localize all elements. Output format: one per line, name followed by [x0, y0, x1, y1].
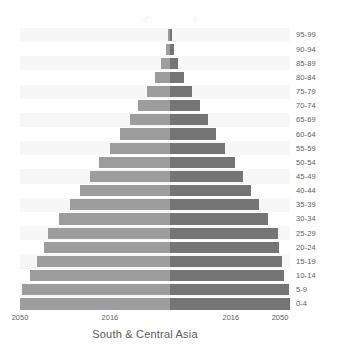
age-axis-label: 85-89	[296, 56, 351, 70]
bar-wrap	[20, 157, 290, 168]
bar-wrap	[20, 86, 290, 97]
bar-male	[59, 213, 170, 224]
bar-female	[170, 270, 284, 281]
pyramid-row	[20, 85, 290, 99]
age-axis-label: 95-99	[296, 28, 351, 42]
age-axis-label: 35-39	[296, 198, 351, 212]
bar-male	[130, 114, 171, 125]
bar-female	[170, 228, 278, 239]
age-axis-label: 45-49	[296, 169, 351, 183]
bar-male	[37, 256, 170, 267]
bar-female	[170, 298, 290, 309]
bar-wrap	[20, 29, 290, 40]
age-axis-label: 90-94	[296, 42, 351, 56]
bar-female	[170, 128, 216, 139]
bar-wrap	[20, 256, 290, 267]
bar-wrap	[20, 128, 290, 139]
bar-male	[155, 72, 170, 83]
bar-female	[170, 242, 279, 253]
bar-wrap	[20, 185, 290, 196]
bar-male	[48, 228, 170, 239]
pyramid-row	[20, 269, 290, 283]
bar-female	[170, 213, 268, 224]
pyramid-row	[20, 113, 290, 127]
bar-rows	[20, 28, 290, 311]
age-axis-label: 15-19	[296, 254, 351, 268]
bar-female	[170, 44, 174, 55]
age-axis-label: 40-44	[296, 184, 351, 198]
bar-female	[170, 199, 259, 210]
bar-male	[44, 242, 170, 253]
age-axis-label: 50-54	[296, 155, 351, 169]
x-axis-tick-label: 2050	[12, 313, 29, 322]
pyramid-row	[20, 56, 290, 70]
bar-female	[170, 86, 192, 97]
age-axis-label: 65-69	[296, 113, 351, 127]
bar-male	[22, 284, 170, 295]
age-axis-label: 55-59	[296, 141, 351, 155]
pyramid-row	[20, 184, 290, 198]
chart-title: South & Central Asia	[0, 328, 290, 340]
bar-male	[110, 143, 170, 154]
bar-wrap	[20, 44, 290, 55]
bar-female	[170, 171, 243, 182]
plot-area	[20, 28, 290, 311]
pyramid-row	[20, 127, 290, 141]
bar-female	[170, 256, 282, 267]
bar-wrap	[20, 114, 290, 125]
age-axis-label: 80-84	[296, 70, 351, 84]
population-pyramid-chart: ♂ ♀ 0-45-910-1415-1920-2425-2930-3435-39…	[0, 0, 351, 359]
age-axis-label: 30-34	[296, 212, 351, 226]
pyramid-row	[20, 283, 290, 297]
bar-wrap	[20, 228, 290, 239]
bar-female	[170, 72, 184, 83]
age-axis-label: 60-64	[296, 127, 351, 141]
pyramid-row	[20, 198, 290, 212]
bar-wrap	[20, 58, 290, 69]
pyramid-row	[20, 155, 290, 169]
pyramid-row	[20, 240, 290, 254]
bar-male	[147, 86, 170, 97]
x-axis-tick-label: 2050	[272, 313, 289, 322]
bar-wrap	[20, 284, 290, 295]
bar-male	[80, 185, 170, 196]
bar-wrap	[20, 171, 290, 182]
age-axis: 0-45-910-1415-1920-2425-2930-3435-3940-4…	[296, 28, 351, 311]
age-axis-label: 10-14	[296, 269, 351, 283]
age-axis-label: 75-79	[296, 85, 351, 99]
pyramid-row	[20, 254, 290, 268]
age-axis-label: 20-24	[296, 240, 351, 254]
bar-wrap	[20, 270, 290, 281]
x-axis-tick-label: 2016	[223, 313, 240, 322]
bar-wrap	[20, 72, 290, 83]
bar-wrap	[20, 242, 290, 253]
age-axis-label: 5-9	[296, 283, 351, 297]
bar-male	[161, 58, 170, 69]
x-axis: 2050201620162050	[20, 313, 290, 325]
pyramid-row	[20, 99, 290, 113]
bar-female	[170, 29, 172, 40]
pyramid-row	[20, 141, 290, 155]
bar-wrap	[20, 143, 290, 154]
bar-female	[170, 114, 208, 125]
age-axis-label: 0-4	[296, 297, 351, 311]
bar-female	[170, 58, 178, 69]
pyramid-row	[20, 70, 290, 84]
bar-male	[138, 100, 170, 111]
bar-wrap	[20, 100, 290, 111]
pyramid-row	[20, 42, 290, 56]
bar-wrap	[20, 298, 290, 309]
age-axis-label: 70-74	[296, 99, 351, 113]
pyramid-row	[20, 297, 290, 311]
age-axis-label: 25-29	[296, 226, 351, 240]
bar-female	[170, 100, 200, 111]
bar-wrap	[20, 199, 290, 210]
bar-female	[170, 157, 235, 168]
bar-male	[70, 199, 170, 210]
bar-male	[90, 171, 170, 182]
bar-male	[120, 128, 170, 139]
bar-male	[30, 270, 170, 281]
pyramid-row	[20, 28, 290, 42]
bar-female	[170, 143, 225, 154]
bar-male	[99, 157, 170, 168]
